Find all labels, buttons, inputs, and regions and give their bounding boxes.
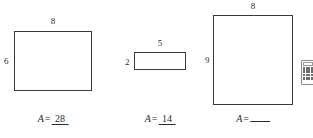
calculator-key xyxy=(311,70,313,73)
rectangle-3-area-value[interactable] xyxy=(250,121,270,122)
calculator-key xyxy=(306,77,308,80)
rectangle-1-area-expression: A=28 xyxy=(38,114,69,125)
rectangle-2-height-label: 2 xyxy=(125,58,130,67)
figure-rectangle-1: 8 6 A=28 xyxy=(0,0,110,138)
figure-rectangle-2: 5 2 A=14 xyxy=(110,0,205,138)
figure-rectangle-3: 8 9 A= xyxy=(205,0,300,138)
calculator-key xyxy=(306,74,308,77)
rectangle-2-area-expression: A=14 xyxy=(145,114,176,125)
rectangle-1-outline xyxy=(14,31,92,91)
rectangle-2-width-label: 5 xyxy=(158,39,163,48)
calculator-key xyxy=(308,67,310,70)
worksheet-canvas: 8 6 A=28 5 2 A=14 8 9 A= xyxy=(0,0,313,138)
rectangle-3-equals-sign: = xyxy=(242,113,250,124)
calculator-screen xyxy=(303,62,313,66)
calculator-key xyxy=(311,74,313,77)
calculator-key xyxy=(311,67,313,70)
rectangle-1-width-label: 8 xyxy=(51,17,56,26)
calculator-key xyxy=(308,77,310,80)
rectangle-1-equals-sign: = xyxy=(44,113,52,124)
calculator-key xyxy=(311,77,313,80)
calculator-keys xyxy=(303,67,313,80)
calculator-key xyxy=(306,67,308,70)
calculator-key xyxy=(303,67,305,70)
rectangle-3-area-expression: A= xyxy=(236,114,270,124)
rectangle-1-height-label: 6 xyxy=(4,57,9,66)
rectangle-2-outline xyxy=(134,52,186,70)
calculator-icon[interactable] xyxy=(301,60,313,85)
rectangle-3-outline xyxy=(213,15,293,105)
rectangle-3-width-label: 8 xyxy=(251,2,256,11)
calculator-key xyxy=(303,77,305,80)
calculator-key xyxy=(308,70,310,73)
calculator-key xyxy=(308,74,310,77)
rectangle-1-area-value[interactable]: 28 xyxy=(51,114,68,125)
calculator-key xyxy=(303,74,305,77)
rectangle-3-height-label: 9 xyxy=(205,56,210,65)
rectangle-2-area-value[interactable]: 14 xyxy=(158,114,175,125)
rectangle-2-equals-sign: = xyxy=(151,113,159,124)
calculator-key xyxy=(306,70,308,73)
calculator-key xyxy=(303,70,305,73)
